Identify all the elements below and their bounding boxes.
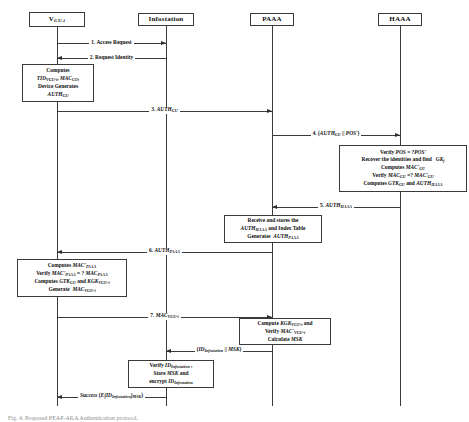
note-line: Calculate MSK: [243, 336, 327, 344]
arrowhead-icon: [395, 133, 400, 137]
note-vgu-computes-auth: Computes TIDVGU-i, MACGU, Device Generat…: [22, 64, 94, 102]
note-line: Verify POS = ?POS': [343, 149, 463, 157]
note-line: Computes: [26, 67, 90, 75]
note-line: Store MSK and: [132, 370, 210, 378]
actor-label-vgu: VGU-i: [49, 16, 65, 23]
note-line: Computes GTKGU and KGKVGU-i: [21, 278, 123, 286]
note-line: Computes MAC'GU: [343, 164, 463, 172]
actor-label-vgu-sub: GU-i: [54, 18, 65, 23]
message-4-auth-gu-pos[interactable]: 4. (AUTHGU || POS'): [272, 130, 400, 139]
note-paaa-compute-msk: Compute KGKVGU-i and Verify MAC'VGU-i Ca…: [239, 318, 331, 345]
message-label-9: Success (E{IDInfostation}MSK): [78, 393, 145, 399]
note-line: Generate MACVGU-i: [21, 286, 123, 294]
note-line: Generates AUTHPAAA: [228, 233, 318, 241]
note-line: Device Generates: [26, 83, 90, 91]
note-line: Recover the identities and find GKj: [343, 156, 463, 164]
actor-label-paaa: PAAA: [262, 16, 282, 23]
message-label-1: 1. Access Request: [89, 40, 133, 45]
actor-box-paaa[interactable]: PAAA: [250, 13, 294, 26]
message-label-4: 4. (AUTHGU || POS'): [311, 131, 362, 137]
note-vgu-verify-mac: Computes MAC'PAAA Verify MAC'PAAA = ? MA…: [17, 259, 127, 297]
note-line: AUTHHAAA and Index Table: [228, 225, 318, 233]
message-label-2: 2. Request Identity: [88, 55, 136, 60]
message-2-request-identity[interactable]: 2. Request Identity: [57, 53, 166, 62]
note-line: Verify MAC'PAAA = ? MACPAAA: [21, 270, 123, 278]
arrowhead-icon: [57, 250, 62, 254]
note-line: encrypt IDInfostation: [132, 378, 210, 386]
arrowhead-icon: [57, 395, 62, 399]
arrowhead-icon: [161, 41, 166, 45]
message-label-3: 3. AUTHGU: [149, 107, 179, 113]
arrowhead-icon: [272, 205, 277, 209]
figure-caption: Fig. 4. Proposed PEAP-AKA Authentication…: [8, 415, 138, 421]
sequence-diagram: VGU-i Infostation PAAA HAAA 1. Access Re…: [0, 0, 469, 422]
actor-box-infostation[interactable]: Infostation: [138, 13, 194, 26]
arrowhead-icon: [267, 315, 272, 319]
note-line: TIDVGU-i, MACGU,: [26, 75, 90, 83]
actor-label-infostation: Infostation: [149, 16, 184, 23]
note-line: AUTHGU: [26, 91, 90, 99]
note-line: Receive and stores the: [228, 217, 318, 225]
note-line: Compute KGKVGU-i and: [243, 320, 327, 328]
message-label-6: 6. AUTHPAAA: [147, 248, 182, 254]
note-line: Computes GTKGU and AUTHHAAA: [343, 180, 463, 188]
message-label-7: 7. MACVGU-i: [148, 313, 181, 319]
actor-label-haaa: HAAA: [389, 16, 410, 23]
note-infostation-verify-store: Verify IDInfostation , Store MSK and enc…: [128, 360, 214, 388]
arrowhead-icon: [267, 109, 272, 113]
message-label-5: 5. AUTHHAAA: [318, 203, 354, 209]
note-haaa-verify: Verify POS = ?POS' Recover the identitie…: [339, 145, 467, 192]
note-line: Verify MAC'VGU-i: [243, 328, 327, 336]
message-label-8: (IDInfostation || MSK): [195, 347, 244, 353]
actor-box-vgu[interactable]: VGU-i: [29, 12, 85, 27]
message-5-auth-haaa[interactable]: 5. AUTHHAAA: [272, 202, 400, 211]
note-line: Verify IDInfostation ,: [132, 362, 210, 370]
note-line: Verify MACGU =? MAC'GU: [343, 172, 463, 180]
actor-box-haaa[interactable]: HAAA: [378, 13, 422, 26]
message-8-id-msk[interactable]: (IDInfostation || MSK): [166, 346, 272, 355]
message-1-access-request[interactable]: 1. Access Request: [57, 38, 166, 47]
message-6-auth-paaa[interactable]: 6. AUTHPAAA: [57, 247, 272, 256]
arrowhead-icon: [57, 56, 62, 60]
note-paaa-receive-store: Receive and stores the AUTHHAAA and Inde…: [224, 215, 322, 243]
arrowhead-icon: [166, 349, 171, 353]
message-3-auth-gu[interactable]: 3. AUTHGU: [57, 106, 272, 115]
lifeline-haaa: [400, 26, 401, 406]
note-line: Computes MAC'PAAA: [21, 262, 123, 270]
message-9-success[interactable]: Success (E{IDInfostation}MSK): [57, 392, 166, 401]
